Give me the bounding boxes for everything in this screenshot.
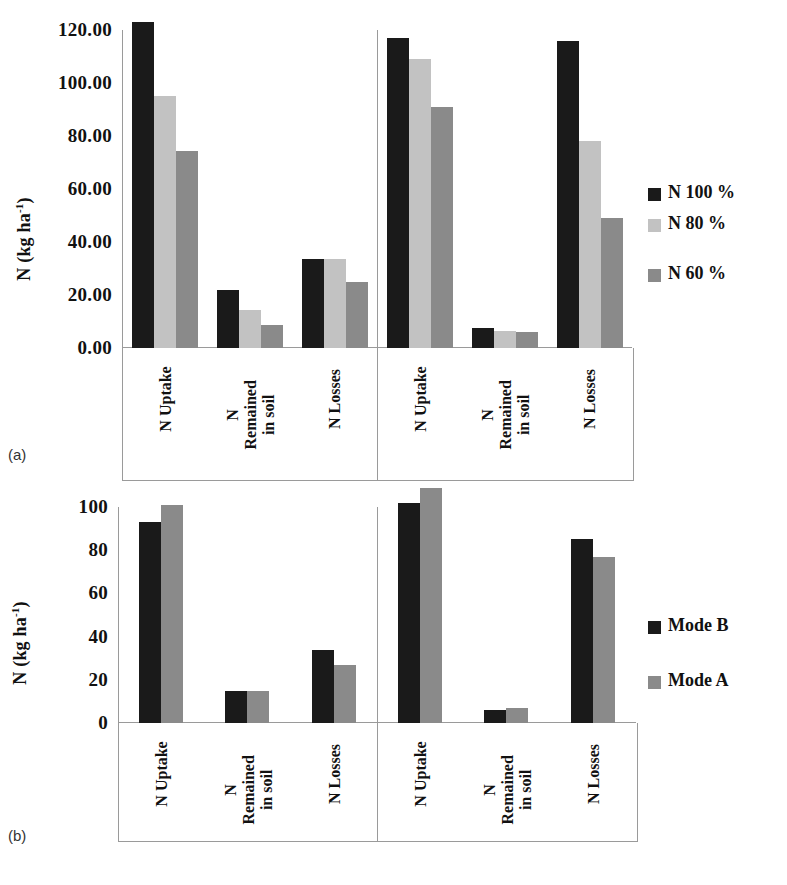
category-cell-a-right-1: N Remained in soil [464, 348, 548, 480]
category-label-b-right-2: N Losses [585, 744, 603, 804]
legend-entry-a-0: N 100 % [648, 182, 764, 203]
bar-b-left-0-0 [139, 522, 161, 723]
bar-group-a-right-2 [557, 30, 623, 348]
y-tick-b-2: 40 [88, 626, 108, 648]
bar-group-a-left-1 [217, 30, 283, 348]
y-tick-b-5: 100 [79, 496, 108, 518]
category-half-a-left: N UptakeN Remained in soilN Losses [123, 348, 378, 480]
panel-a: (a) N (kg ha-1) 0.0020.0040.0060.0080.00… [0, 0, 787, 487]
legend-swatch-a-2 [648, 269, 661, 282]
bar-a-right-2-1 [579, 141, 601, 348]
bar-a-right-2-2 [601, 218, 623, 348]
y-tick-b-0: 0 [98, 712, 108, 734]
legend-swatch-b-0 [648, 621, 661, 634]
bar-a-left-2-2 [346, 282, 368, 348]
legend-entry-a-2: N 60 % [648, 263, 764, 284]
bar-a-right-0-1 [409, 59, 431, 348]
panel-a-tag: (a) [8, 446, 26, 463]
bar-group-a-right-1 [472, 30, 538, 348]
category-labels-a: N UptakeN Remained in soilN LossesN Upta… [122, 348, 634, 481]
category-cell-a-right-0: N Uptake [379, 348, 463, 480]
bar-b-right-0-1 [420, 488, 442, 723]
category-label-a-right-0: N Uptake [412, 366, 430, 431]
bar-group-a-left-0 [132, 30, 198, 348]
bar-b-left-1-1 [247, 691, 269, 723]
category-label-b-right-1: N Remained in soil [481, 755, 535, 824]
category-labels-b: N UptakeN Remained in soilN LossesN Upta… [118, 723, 638, 842]
category-half-a-right: N UptakeN Remained in soilN Losses [378, 348, 633, 480]
category-cell-b-left-1: N Remained in soil [206, 723, 290, 841]
category-cell-a-left-2: N Losses [294, 348, 378, 480]
category-cell-b-right-0: N Uptake [379, 723, 463, 841]
category-label-a-left-0: N Uptake [157, 366, 175, 431]
bar-group-b-left-2 [312, 507, 356, 723]
legend-entry-b-0: Mode B [648, 615, 764, 636]
bar-group-b-right-0 [398, 507, 442, 723]
bar-half-b-right [377, 507, 636, 723]
y-tick-a-2: 40.00 [68, 231, 112, 253]
bar-a-left-1-2 [261, 325, 283, 348]
panel-b: (b) N (kg ha-1) 020406080100 N UptakeN R… [0, 487, 787, 885]
category-label-b-left-2: N Losses [326, 744, 344, 804]
bar-b-right-2-1 [593, 557, 615, 723]
legend-label-b-1: Mode A [668, 670, 764, 691]
legend-label-b-0: Mode B [668, 615, 764, 636]
bar-a-left-1-1 [239, 310, 261, 348]
bar-a-right-2-0 [557, 41, 579, 348]
bar-a-right-0-0 [387, 38, 409, 348]
category-label-a-right-1: N Remained in soil [479, 380, 533, 449]
legend-entry-a-1: N 80 % [648, 213, 764, 234]
y-tick-a-0: 0.00 [78, 337, 112, 359]
category-label-b-left-0: N Uptake [153, 741, 171, 806]
bar-group-b-left-0 [139, 507, 183, 723]
legend-label-a-0: N 100 % [668, 182, 740, 203]
bar-a-right-1-1 [494, 331, 516, 348]
category-label-a-right-2: N Losses [582, 369, 600, 429]
bar-b-right-0-0 [398, 503, 420, 723]
y-tick-b-4: 80 [88, 539, 108, 561]
legend-swatch-b-1 [648, 676, 661, 689]
bar-half-a-right [377, 30, 632, 348]
category-cell-b-right-2: N Losses [552, 723, 636, 841]
bar-a-left-0-2 [176, 151, 198, 348]
legend-label-a-2: N 60 % [668, 263, 764, 284]
category-cell-a-right-2: N Losses [549, 348, 633, 480]
bar-group-a-right-0 [387, 30, 453, 348]
legend-b: Mode BMode A [648, 615, 764, 696]
bar-a-right-1-0 [472, 328, 494, 348]
legend-entry-b-1: Mode A [648, 670, 764, 691]
bar-a-left-0-0 [132, 22, 154, 348]
category-label-b-left-1: N Remained in soil [222, 755, 276, 824]
bar-half-b-left [118, 507, 377, 723]
category-cell-b-left-0: N Uptake [120, 723, 204, 841]
category-half-b-left: N UptakeN Remained in soilN Losses [119, 723, 378, 841]
category-label-a-left-2: N Losses [327, 369, 345, 429]
y-tick-b-1: 20 [88, 669, 108, 691]
y-tick-a-1: 20.00 [68, 284, 112, 306]
category-label-a-left-1: N Remained in soil [224, 380, 278, 449]
bar-a-left-2-0 [302, 259, 324, 348]
y-tick-a-5: 100.00 [58, 72, 112, 94]
y-tick-a-3: 60.00 [68, 178, 112, 200]
legend-a: N 100 %N 80 %N 60 % [648, 182, 764, 290]
y-tick-b-3: 60 [88, 582, 108, 604]
bar-group-b-left-1 [225, 507, 269, 723]
bar-b-right-1-0 [484, 710, 506, 723]
bar-a-left-2-1 [324, 259, 346, 348]
bar-b-right-1-1 [506, 708, 528, 723]
bar-group-a-left-2 [302, 30, 368, 348]
bar-half-a-left [122, 30, 377, 348]
bar-b-left-2-0 [312, 650, 334, 723]
category-cell-b-left-2: N Losses [293, 723, 377, 841]
category-cell-b-right-1: N Remained in soil [465, 723, 549, 841]
y-tick-a-4: 80.00 [68, 125, 112, 147]
legend-swatch-a-1 [648, 219, 661, 232]
category-cell-a-left-0: N Uptake [124, 348, 208, 480]
bar-group-b-right-2 [571, 507, 615, 723]
category-label-b-right-0: N Uptake [412, 741, 430, 806]
bar-group-b-right-1 [484, 507, 528, 723]
legend-swatch-a-0 [648, 188, 661, 201]
bar-b-left-0-1 [161, 505, 183, 723]
bar-a-left-1-0 [217, 290, 239, 348]
category-cell-a-left-1: N Remained in soil [209, 348, 293, 480]
